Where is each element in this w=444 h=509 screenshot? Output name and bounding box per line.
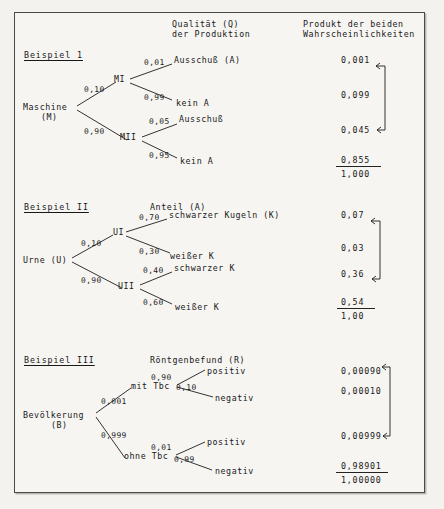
example-2-leaf-label-3: schwarzer K xyxy=(174,263,235,273)
example-3-leaf-prob-4: 0,99 xyxy=(174,455,195,465)
column-header-product-line1: Produkt der beiden xyxy=(303,19,404,29)
example-1-root-label-line1: Maschine xyxy=(23,102,67,112)
example-3-leaf-prob-2: 0,10 xyxy=(176,383,197,393)
example-1-product-4: 0,855 xyxy=(341,155,370,165)
example-1-node-upper: MI xyxy=(114,74,125,84)
example-3-product-2: 0,00010 xyxy=(341,386,382,396)
example-3-title: Beispiel III xyxy=(24,355,95,365)
example-1-product-2: 0,099 xyxy=(341,90,370,100)
column-header-product-line2: Wahrscheinlichkeiten xyxy=(303,29,415,39)
example-3-product-4: 0,98901 xyxy=(341,461,382,471)
example-1-product-3: 0,045 xyxy=(341,125,370,135)
example-2-product-3: 0,36 xyxy=(341,269,364,279)
example-1-leaf-prob-2: 0,99 xyxy=(144,93,165,103)
example-1-leaf-label-1: Ausschuß (A) xyxy=(174,55,241,65)
column-header-quality-line1: Qualität (Q) xyxy=(172,19,239,29)
example-2-leaf-prob-2: 0,30 xyxy=(139,247,160,257)
example-3-leaf-label-3: positiv xyxy=(207,437,246,447)
example-1-node-lower: MII xyxy=(120,132,137,142)
example-2-prob-upper: 0,10 xyxy=(81,239,102,249)
example-1-title: Beispiel 1 xyxy=(24,50,83,60)
example-3-root-label-line2: (B) xyxy=(51,420,68,430)
example-3-product-3: 0,00999 xyxy=(341,431,382,441)
example-2-leaf-prob-1: 0,70 xyxy=(139,213,160,223)
example-3-sum-rule xyxy=(336,472,388,473)
example-1-prob-lower: 0,90 xyxy=(84,127,105,137)
example-2-sum-rule xyxy=(337,308,375,309)
example-1-prob-upper: 0,10 xyxy=(84,85,105,95)
example-2-leaf-label-1: schwarzer Kugeln (K) xyxy=(169,210,280,220)
example-1-leaf-prob-1: 0,01 xyxy=(144,58,165,68)
example-1-sum-rule xyxy=(336,166,381,167)
example-2-node-upper: UI xyxy=(113,227,124,237)
example-2-leaf-label-4: weißer K xyxy=(175,302,219,312)
example-2-leaf-label-2: weißer K xyxy=(170,251,214,261)
example-1-total: 1,000 xyxy=(341,169,370,179)
example-1-leaf-label-4: kein A xyxy=(180,156,213,166)
example-3-leaf-label-2: negativ xyxy=(215,393,254,403)
document-page: Qualität (Q) der Produktion Produkt der … xyxy=(0,0,444,509)
example-2-total: 1,00 xyxy=(341,311,364,321)
column-header-quality-line2: der Produktion xyxy=(172,29,250,39)
example-3-leaf-label-1: positiv xyxy=(207,366,246,376)
example-1-root-label-line2: (M) xyxy=(41,112,58,122)
example-2-leaf-prob-4: 0,60 xyxy=(143,298,164,308)
example-3-header: Röntgenbefund (R) xyxy=(150,355,245,365)
example-3-product-1: 0,00090 xyxy=(341,366,382,376)
example-2-title: Beispiel II xyxy=(24,202,89,212)
example-3-prob-upper: 0,001 xyxy=(101,397,127,407)
example-2-product-2: 0,03 xyxy=(341,243,364,253)
example-3-root-label-line1: Bevölkerung xyxy=(23,410,84,420)
example-1-product-1: 0,001 xyxy=(341,55,370,65)
example-2-node-lower: UII xyxy=(118,281,135,291)
example-2-prob-lower: 0,90 xyxy=(81,276,102,286)
example-1-leaf-label-2: kein A xyxy=(176,98,209,108)
example-1-leaf-prob-4: 0,95 xyxy=(149,151,170,161)
example-1-leaf-prob-3: 0,05 xyxy=(149,117,170,127)
example-3-leaf-prob-3: 0,01 xyxy=(151,443,172,453)
example-2-product-4: 0,54 xyxy=(341,297,364,307)
example-2-leaf-prob-3: 0,40 xyxy=(143,266,164,276)
example-3-prob-lower: 0,999 xyxy=(101,431,127,441)
example-2-product-1: 0,07 xyxy=(341,210,364,220)
example-3-leaf-prob-1: 0,90 xyxy=(151,373,172,383)
example-2-root-label-line1: Urne (U) xyxy=(23,255,67,265)
example-3-total: 1,00000 xyxy=(341,475,382,485)
example-1-leaf-label-3: Ausschuß xyxy=(179,114,223,124)
example-3-leaf-label-4: negativ xyxy=(215,466,254,476)
